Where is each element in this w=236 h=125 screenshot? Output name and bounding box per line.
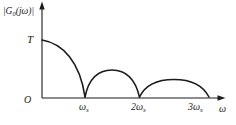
zoh-magnitude-response-plot: |G0(jω)| T O ωs 2ωs 3ωs ω [0,0,236,125]
x-tick-2ws-subscript: s [143,106,146,114]
x-tick-label-3ws: 3ωs [188,102,203,112]
x-tick-3ws-base: ω [193,101,200,112]
y-tick-label-T: T [27,34,33,45]
y-axis-label-subscript: 0 [12,10,15,17]
main-lobe-curve [42,40,85,97]
second-lobe-curve [85,70,140,97]
x-tick-ws-base: ω [79,101,86,112]
x-tick-ws-subscript: s [86,106,89,114]
x-tick-label-2ws: 2ωs [131,102,146,112]
x-tick-2ws-base: ω [136,101,143,112]
x-tick-label-ws: ωs [79,102,89,112]
x-tick-3ws-subscript: s [200,106,203,114]
third-lobe-curve [140,80,210,98]
x-axis-label: ω [219,104,226,114]
origin-label: O [24,95,31,105]
y-axis-label-suffix: (jω)| [16,6,34,16]
y-axis-arrowhead-icon [39,2,44,10]
x-axis-arrowhead-icon [218,95,226,100]
y-axis-label: |G0(jω)| [3,7,34,17]
